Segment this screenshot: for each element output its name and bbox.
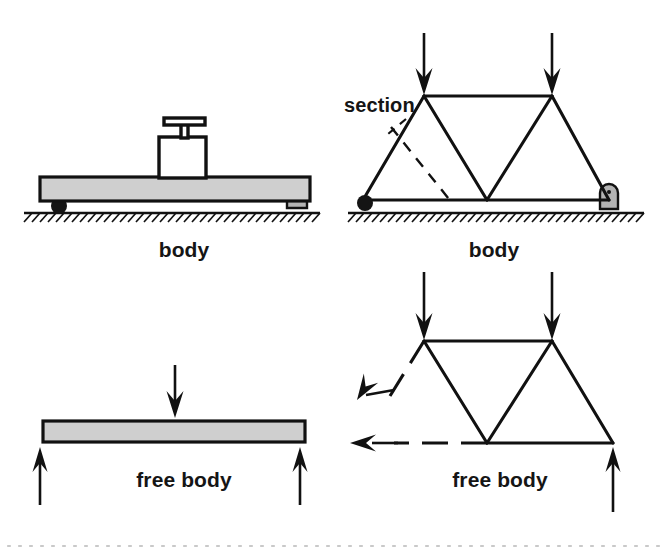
figure-root: body [0,0,672,554]
beam-member [40,177,310,201]
panel-truss-free-body: free body [350,272,621,512]
free-body-reaction-arrow-right [293,447,308,505]
weight-block [159,118,206,178]
ground-hatching-truss [348,213,644,222]
panel-label-beam-body: body [159,238,210,261]
free-body-applied-load-arrow [167,365,184,418]
cut-diagonal-chord [390,341,424,396]
free-body-truss-reaction-arrow [606,447,621,512]
applied-load-arrow-left [416,33,433,95]
engineering-diagram-canvas: body [0,0,672,554]
panel-label-truss-free-body: free body [452,468,548,491]
free-body-truss-load-right [544,272,561,340]
applied-load-arrow-right [544,33,561,95]
panel-label-truss-body: body [469,238,520,261]
free-body-beam-member [43,421,305,442]
ground-hatching-beam [24,213,320,222]
internal-force-chord-arrow [350,374,378,405]
internal-force-axial-arrow [350,435,398,452]
section-label: section [344,94,415,116]
truss-roller-support-icon [357,195,373,211]
panel-beam-free-body: free body [33,365,308,505]
panel-truss-body: section body [344,33,644,261]
free-body-truss-load-left [416,272,433,340]
truss-members-free-body [424,341,613,443]
panel-label-beam-free-body: free body [136,468,232,491]
free-body-reaction-arrow-left [33,447,48,505]
panel-beam-body: body [24,118,320,261]
